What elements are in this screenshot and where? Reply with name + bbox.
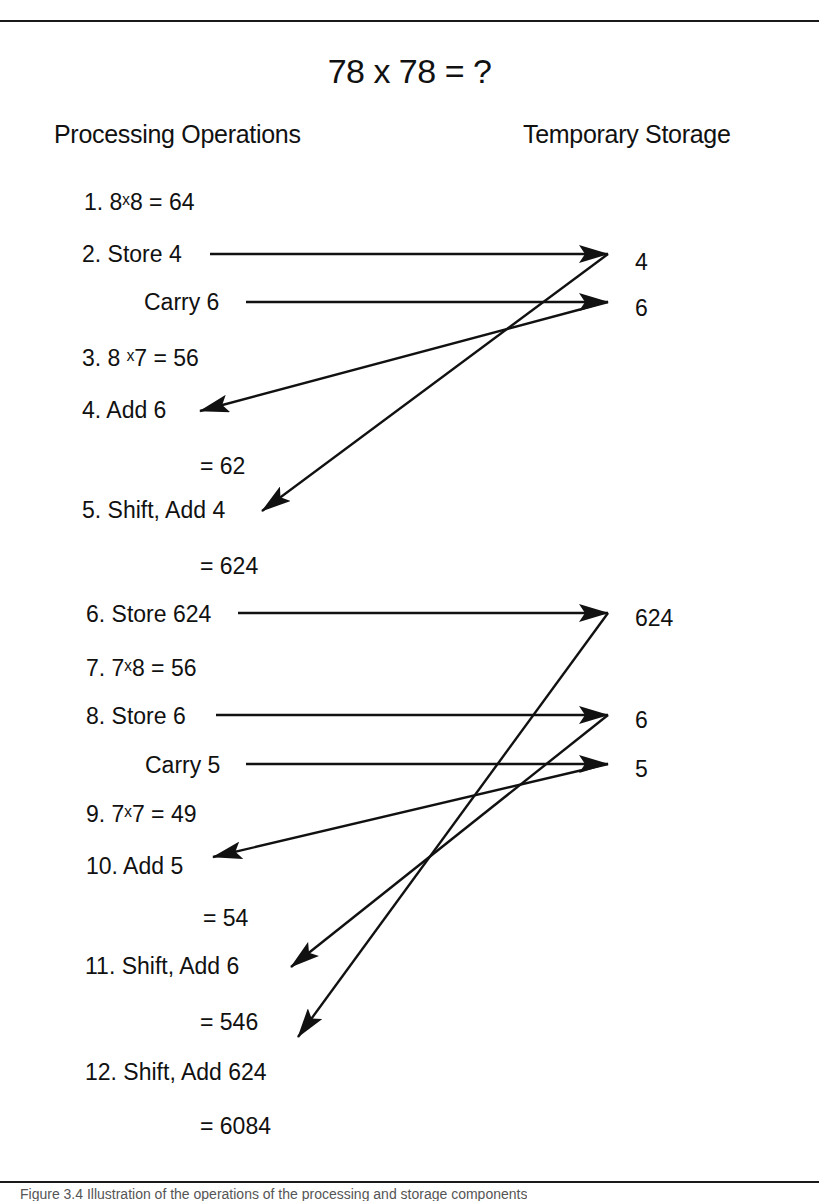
arrow-retrieve-4-to-shift-add bbox=[262, 254, 608, 511]
arrow-retrieve-6-to-shift-add bbox=[291, 715, 608, 967]
arrow-retrieve-5-to-add bbox=[213, 764, 608, 857]
arrow-retrieve-6-to-add bbox=[200, 302, 608, 411]
bottom-rule bbox=[0, 1181, 819, 1183]
arrow-layer bbox=[0, 0, 819, 1201]
figure-caption: Figure 3.4 Illustration of the operation… bbox=[20, 1186, 527, 1201]
